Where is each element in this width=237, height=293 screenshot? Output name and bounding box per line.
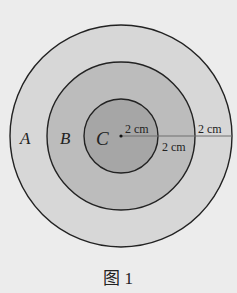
region-b-label: B bbox=[60, 129, 71, 148]
measurement-middle-label: 2 cm bbox=[162, 140, 186, 154]
figure-caption: 图 1 bbox=[103, 269, 133, 288]
region-a-label: A bbox=[19, 129, 31, 148]
center-dot bbox=[119, 134, 122, 137]
region-c-label: C bbox=[96, 128, 109, 149]
measurement-outer-label: 2 cm bbox=[198, 122, 222, 136]
measurement-inner-label: 2 cm bbox=[125, 122, 149, 136]
concentric-circles-diagram: A B C 2 cm 2 cm 2 cm 图 1 bbox=[0, 0, 237, 293]
